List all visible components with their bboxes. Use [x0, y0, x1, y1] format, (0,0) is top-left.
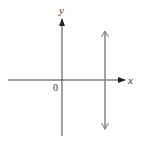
x-axis-label: x — [127, 74, 133, 86]
y-axis-label: y — [58, 4, 64, 16]
origin-label: 0 — [53, 82, 58, 93]
coordinate-diagram: y x 0 — [0, 0, 141, 141]
